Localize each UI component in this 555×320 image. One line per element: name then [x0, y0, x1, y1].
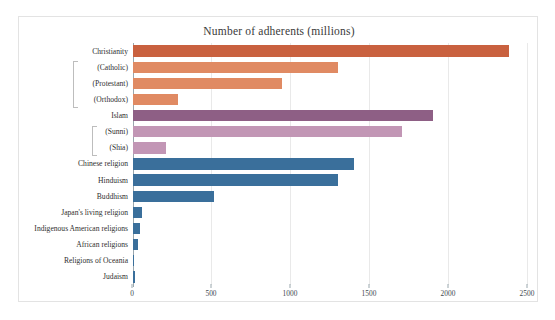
bar [133, 62, 338, 73]
x-tick-mark [211, 284, 212, 288]
category-label: Japan's living religion [61, 205, 128, 220]
bar [133, 174, 338, 185]
chart-frame: Number of adherents (millions) Christian… [18, 16, 538, 302]
bar [133, 255, 134, 266]
x-tick-mark [527, 284, 528, 288]
category-label: African religions [76, 237, 128, 252]
category-label: Religions of Oceania [64, 253, 128, 268]
bar [133, 191, 214, 202]
x-tick-mark [369, 284, 370, 288]
category-label: (Catholic) [97, 60, 128, 75]
category-label: Christianity [92, 44, 128, 59]
x-tick-mark [132, 284, 133, 288]
gridline [527, 43, 528, 285]
bar [133, 207, 142, 218]
category-label: (Orthodox) [94, 92, 128, 107]
bar [133, 271, 135, 282]
category-label: Islam [111, 108, 128, 123]
category-label: Chinese religion [78, 156, 128, 171]
category-label: Buddhism [97, 189, 128, 204]
bar [133, 239, 138, 250]
bar [133, 94, 178, 105]
category-label: Hinduism [98, 173, 128, 188]
x-axis-tick-labels: 05001000150020002500 [132, 289, 527, 305]
x-tick-label: 2000 [441, 289, 456, 298]
category-label: (Protestant) [93, 76, 128, 91]
x-tick-mark [448, 284, 449, 288]
plot-wrapper: Christianity(Catholic)(Protestant)(Ortho… [19, 17, 539, 303]
bar [133, 45, 509, 56]
group-bracket [73, 61, 78, 107]
x-tick-label: 500 [205, 289, 216, 298]
gridline [448, 43, 449, 285]
group-bracket [92, 126, 97, 156]
category-label: Judaism [103, 269, 128, 284]
x-tick-label: 1000 [283, 289, 298, 298]
x-tick-label: 2500 [520, 289, 535, 298]
x-tick-mark [290, 284, 291, 288]
category-label: Indigenous American religions [34, 221, 128, 236]
bar [133, 126, 402, 137]
category-label: (Sunni) [105, 124, 128, 139]
category-axis-labels: Christianity(Catholic)(Protestant)(Ortho… [19, 43, 132, 285]
plot-area [132, 43, 527, 285]
bar [133, 78, 282, 89]
bar [133, 158, 354, 169]
x-tick-label: 0 [130, 289, 134, 298]
bar [133, 142, 166, 153]
category-label: (Shia) [109, 140, 128, 155]
gridline [369, 43, 370, 285]
bar [133, 223, 140, 234]
bar [133, 110, 433, 121]
x-tick-label: 1500 [362, 289, 377, 298]
